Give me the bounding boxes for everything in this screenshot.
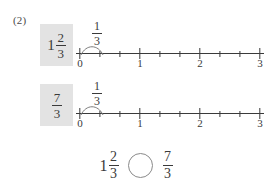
axis-tick-label-1: 1 (137, 118, 143, 129)
axis-tick-label-3: 3 (257, 118, 263, 129)
axis-tick-label-3: 3 (257, 58, 263, 69)
interval-arc-icon (80, 100, 124, 116)
comparison-left-value: 1 2 3 (100, 150, 119, 181)
fraction: 7 3 (163, 150, 173, 181)
axis-tick-label-2: 2 (197, 58, 203, 69)
worksheet-page: (2) 1 2 3 (0, 0, 272, 196)
interval-callout-one-third: 1 3 (80, 80, 124, 114)
number-line-axis-improper: 0 1 2 3 1 3 (76, 80, 266, 130)
interval-callout-one-third: 1 3 (80, 20, 124, 54)
fraction-chip-mixed: 1 2 3 (40, 24, 73, 66)
interval-arc-icon (80, 40, 124, 56)
axis-tick-minor-5-3 (179, 51, 180, 57)
whole-part: 1 (47, 38, 56, 53)
numerator: 7 (53, 91, 62, 104)
axis-tick-minor-4-3 (159, 111, 160, 117)
fraction: 2 3 (109, 150, 119, 181)
fraction-chip-improper: 7 3 (40, 84, 73, 126)
axis-tick-label-0: 0 (77, 58, 83, 69)
numerator: 1 (93, 80, 101, 92)
axis-tick-minor-7-3 (219, 51, 220, 57)
fraction-chip-mixed-value: 1 2 3 (47, 31, 66, 60)
number-line-axis-mixed: 0 1 2 3 1 3 (76, 20, 266, 70)
axis-tick-minor-4-3 (159, 51, 160, 57)
comparison-expression: 1 2 3 7 3 (0, 150, 272, 181)
numerator: 2 (57, 31, 66, 44)
fraction: 7 3 (52, 91, 62, 120)
axis-tick-minor-5-3 (179, 111, 180, 117)
denominator: 3 (163, 167, 172, 181)
comparison-right-value: 7 3 (162, 150, 173, 181)
axis-tick-minor-7-3 (219, 111, 220, 117)
numerator: 7 (163, 150, 172, 164)
denominator: 3 (57, 47, 66, 60)
number-line-row-mixed: 1 2 3 0 1 2 (0, 20, 272, 70)
whole-part: 1 (100, 158, 109, 174)
axis-tick-label-0: 0 (77, 118, 83, 129)
fraction-chip-improper-value: 7 3 (51, 91, 62, 120)
comparison-operator-answer-circle[interactable] (128, 153, 153, 178)
axis-tick-label-1: 1 (137, 58, 143, 69)
numerator: 1 (93, 20, 101, 32)
number-line-row-improper: 7 3 0 1 2 3 1 (0, 80, 272, 130)
fraction: 2 3 (56, 31, 66, 60)
axis-tick-label-2: 2 (197, 118, 203, 129)
axis-tick-minor-8-3 (239, 51, 240, 57)
axis-tick-minor-8-3 (239, 111, 240, 117)
denominator: 3 (53, 107, 62, 120)
numerator: 2 (109, 150, 118, 164)
denominator: 3 (109, 167, 118, 181)
